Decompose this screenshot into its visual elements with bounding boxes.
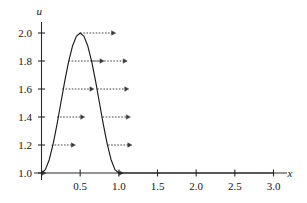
x-tick-label: 3.0: [259, 181, 289, 192]
y-tick-label: 1.0: [2, 168, 32, 179]
x-axis-label: x: [288, 168, 293, 179]
y-tick-label: 2.0: [2, 28, 32, 39]
y-axis-label: u: [37, 6, 43, 17]
y-tick-label: 1.2: [2, 140, 32, 151]
plot-canvas: [0, 0, 307, 203]
x-tick-label: 0.5: [65, 181, 95, 192]
x-tick-label: 1.0: [104, 181, 134, 192]
characteristic-arrows: [42, 31, 132, 176]
chart-figure: 1.01.21.41.61.82.00.51.01.52.02.53.0 u x: [0, 0, 307, 203]
x-tick-label: 2.5: [220, 181, 250, 192]
y-tick-label: 1.8: [2, 56, 32, 67]
y-tick-label: 1.4: [2, 112, 32, 123]
x-tick-label: 1.5: [143, 181, 173, 192]
x-tick-label: 2.0: [181, 181, 211, 192]
y-tick-label: 1.6: [2, 84, 32, 95]
axes: [34, 22, 287, 180]
solution-curve: [42, 33, 274, 173]
